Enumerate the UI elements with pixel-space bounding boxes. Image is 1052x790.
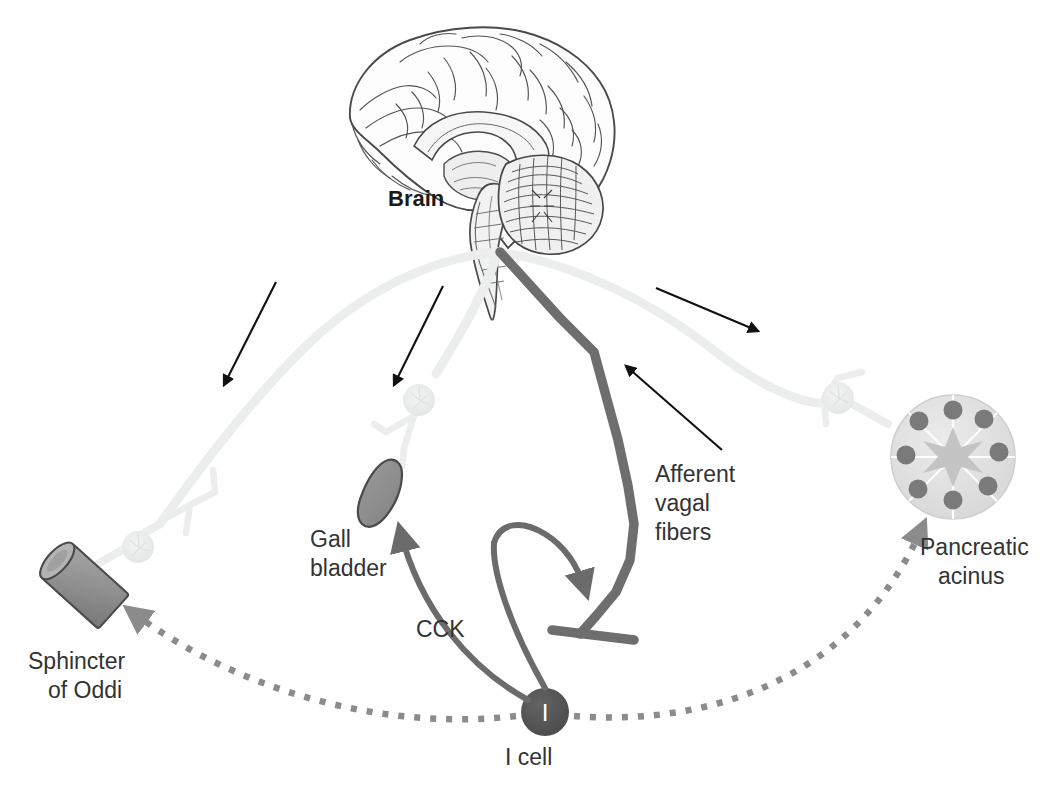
- ganglion-middle: [403, 384, 435, 416]
- cck-label: CCK: [416, 616, 465, 642]
- pancreatic-acinus: [891, 395, 1015, 519]
- ganglion-right: [822, 382, 854, 414]
- sphincter-label-line2: of Oddi: [48, 677, 122, 703]
- gall-bladder-label-line2: bladder: [310, 555, 387, 581]
- pancreatic-acinus-label-line2: acinus: [938, 563, 1004, 589]
- i-cell-glyph: I: [542, 699, 549, 726]
- i-cell-label: I cell: [505, 744, 552, 770]
- afferent-label-line1: Afferent: [655, 461, 736, 487]
- ganglion-left: [122, 531, 154, 563]
- afferent-label-line2: vagal: [655, 490, 710, 516]
- i-cell: I: [521, 688, 569, 736]
- brain-label: Brain: [388, 186, 444, 211]
- afferent-label-line3: fibers: [655, 519, 711, 545]
- gall-bladder-label-line1: Gall: [310, 526, 351, 552]
- figure-root: Brain: [0, 0, 1052, 790]
- pancreatic-acinus-label-line1: Pancreatic: [920, 534, 1029, 560]
- sphincter-label-line1: Sphincter: [28, 648, 126, 674]
- cck-pathway-diagram: Brain: [0, 0, 1052, 790]
